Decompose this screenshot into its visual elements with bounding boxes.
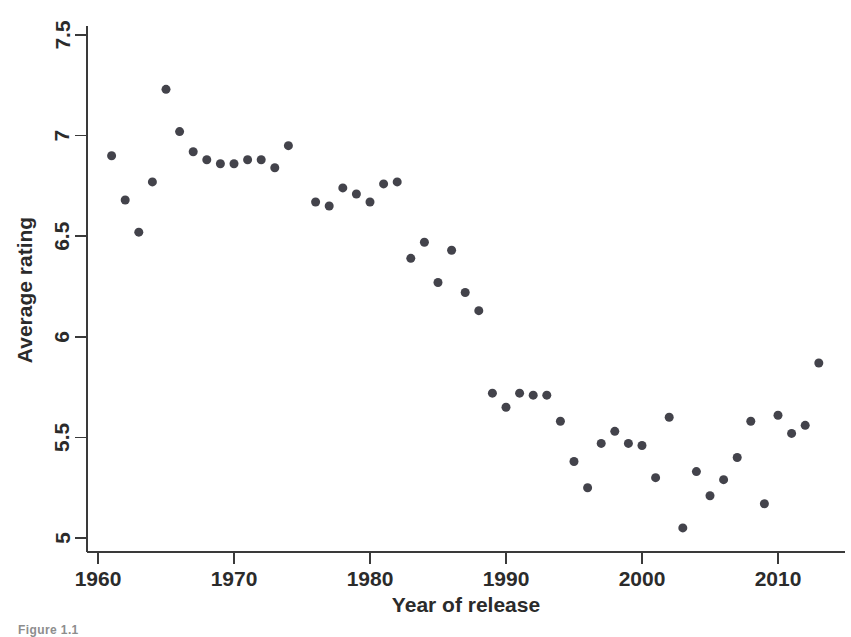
data-point xyxy=(529,391,538,400)
data-point xyxy=(148,177,157,186)
x-axis-ticks: 196019701980199020002010 xyxy=(75,552,802,590)
x-tick-label: 1990 xyxy=(483,567,530,590)
data-point xyxy=(474,306,483,315)
data-point xyxy=(311,198,320,207)
data-point xyxy=(162,85,171,94)
data-point xyxy=(746,417,755,426)
data-point xyxy=(406,254,415,263)
data-point xyxy=(134,228,143,237)
data-point xyxy=(733,453,742,462)
scatter-plot-figure: 55.566.577.5 196019701980199020002010 Ye… xyxy=(0,0,851,637)
data-point xyxy=(570,457,579,466)
data-point xyxy=(610,427,619,436)
data-point xyxy=(352,189,361,198)
data-point xyxy=(624,439,633,448)
data-point xyxy=(379,179,388,188)
data-point xyxy=(719,475,728,484)
y-tick-label: 7 xyxy=(51,130,74,142)
x-tick-label: 1970 xyxy=(211,567,258,590)
data-point-markers xyxy=(107,85,823,533)
data-point xyxy=(774,411,783,420)
data-point xyxy=(338,183,347,192)
data-point xyxy=(434,278,443,287)
plot-canvas: 55.566.577.5 196019701980199020002010 Ye… xyxy=(0,0,851,637)
data-point xyxy=(801,421,810,430)
data-point xyxy=(760,499,769,508)
x-tick-label: 1960 xyxy=(75,567,122,590)
data-point xyxy=(270,163,279,172)
data-point xyxy=(488,389,497,398)
data-point xyxy=(202,155,211,164)
data-point xyxy=(243,155,252,164)
data-point xyxy=(692,467,701,476)
data-point xyxy=(257,155,266,164)
data-point xyxy=(175,127,184,136)
data-point xyxy=(461,288,470,297)
data-point xyxy=(583,483,592,492)
data-point xyxy=(216,159,225,168)
data-point xyxy=(706,491,715,500)
data-point xyxy=(651,473,660,482)
data-point xyxy=(325,202,334,211)
data-point xyxy=(420,238,429,247)
data-point xyxy=(787,429,796,438)
x-tick-label: 2010 xyxy=(755,567,802,590)
data-point xyxy=(542,391,551,400)
y-axis-title: Average rating xyxy=(13,217,36,363)
data-point xyxy=(189,147,198,156)
data-point xyxy=(638,441,647,450)
data-point xyxy=(814,358,823,367)
data-point xyxy=(515,389,524,398)
y-tick-label: 6.5 xyxy=(51,221,74,251)
y-tick-label: 5.5 xyxy=(51,422,74,452)
data-point xyxy=(230,159,239,168)
data-point xyxy=(665,413,674,422)
data-point xyxy=(121,195,130,204)
data-point xyxy=(366,198,375,207)
y-tick-label: 5 xyxy=(51,532,74,544)
x-tick-label: 1980 xyxy=(347,567,394,590)
data-point xyxy=(556,417,565,426)
data-point xyxy=(678,523,687,532)
data-point xyxy=(502,403,511,412)
y-axis-ticks: 55.566.577.5 xyxy=(51,20,88,544)
y-tick-label: 7.5 xyxy=(51,20,74,50)
y-tick-label: 6 xyxy=(51,331,74,343)
data-point xyxy=(393,177,402,186)
data-point xyxy=(284,141,293,150)
data-point xyxy=(597,439,606,448)
figure-caption-partial: Figure 1.1 xyxy=(18,623,278,637)
data-point xyxy=(107,151,116,160)
x-axis-title: Year of release xyxy=(392,593,540,616)
x-tick-label: 2000 xyxy=(619,567,666,590)
data-point xyxy=(447,246,456,255)
